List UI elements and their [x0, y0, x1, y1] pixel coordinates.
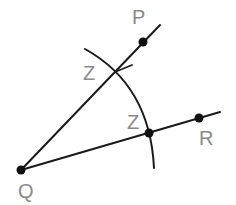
label-r: R: [199, 127, 213, 149]
point-z: [145, 129, 154, 138]
ray-qr: [21, 112, 220, 170]
label-w: Z: [83, 62, 95, 84]
label-q: Q: [18, 180, 34, 202]
ray-qp: [21, 25, 160, 170]
label-z: Z: [127, 111, 139, 133]
diagram-svg: P Z Z R Q: [0, 0, 236, 205]
point-p: [139, 38, 148, 47]
point-r: [195, 114, 204, 123]
label-p: P: [132, 6, 145, 28]
point-q: [17, 166, 26, 175]
geometry-diagram: P Z Z R Q: [0, 0, 236, 205]
